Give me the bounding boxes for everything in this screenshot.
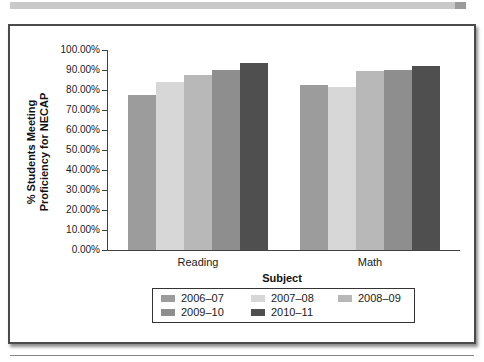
legend: 2006–072007–082008–092009–102010–11 [152,288,415,323]
bar-reading-2006-07 [128,95,156,250]
bar-math-2006-07 [300,85,328,250]
legend-swatch [161,309,175,316]
bar-math-2007-08 [328,87,356,250]
top-strip [10,2,455,9]
y-tick-label: 80.00% [45,85,100,95]
y-tick-label: 90.00% [45,65,100,75]
bar-reading-2009-10 [212,70,240,250]
legend-swatch [251,309,265,316]
bar-reading-2010-11 [240,63,268,250]
bar-math-2010-11 [412,66,440,250]
y-tick-label: 50.00% [45,145,100,155]
bar-math-2008-09 [356,71,384,250]
y-tick-label: 20.00% [45,205,100,215]
y-tick-label: 70.00% [45,105,100,115]
legend-label: 2006–07 [181,292,224,305]
bottom-rule [10,355,474,356]
bar-reading-2008-09 [184,75,212,250]
legend-item-2010-11: 2010–11 [251,306,338,319]
bar-math-2009-10 [384,70,412,250]
legend-item-2009-10: 2009–10 [161,306,251,319]
legend-item-2006-07: 2006–07 [161,292,251,305]
bar-reading-2007-08 [156,82,184,250]
legend-swatch [251,295,265,302]
legend-item-2007-08: 2007–08 [251,292,338,305]
y-tick-label: 40.00% [45,165,100,175]
x-axis-line [107,250,460,251]
legend-item-2008-09: 2008–09 [338,292,414,305]
y-tick-label: 30.00% [45,185,100,195]
bar-chart: % Students Meeting Proficiency for NECAP… [10,26,474,342]
category-label-math: Math [330,256,410,268]
top-strip-cap [455,2,466,9]
y-tick-label: 100.00% [45,45,100,55]
y-tick-label: 0.00% [45,245,100,255]
x-axis-title: Subject [242,272,322,284]
category-label-reading: Reading [158,256,238,268]
legend-label: 2008–09 [358,292,401,305]
y-tick-label: 10.00% [45,225,100,235]
y-axis-title-line1: % Students Meeting [25,72,38,232]
figure-box: % Students Meeting Proficiency for NECAP… [8,24,476,344]
legend-swatch [161,295,175,302]
legend-swatch [338,295,352,302]
legend-label: 2009–10 [181,306,224,319]
legend-label: 2007–08 [271,292,314,305]
legend-label: 2010–11 [271,306,313,319]
y-tick-label: 60.00% [45,125,100,135]
y-axis-line [107,50,108,251]
